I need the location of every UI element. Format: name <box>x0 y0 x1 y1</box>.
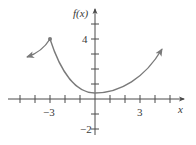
x-axis-label: x <box>177 103 183 115</box>
function-graph: f(x) x −3 3 4 −2 <box>0 0 196 145</box>
y-axis-label: f(x) <box>73 7 89 20</box>
x-tick-label-3: 3 <box>137 106 143 118</box>
curve-left-branch <box>27 39 50 57</box>
y-tick-label-4: 4 <box>82 33 88 45</box>
curve-right-branch <box>50 39 162 93</box>
y-tick-label-neg2: −2 <box>80 123 92 135</box>
x-tick-label-neg3: −3 <box>43 106 55 118</box>
closed-endpoint <box>48 37 52 41</box>
